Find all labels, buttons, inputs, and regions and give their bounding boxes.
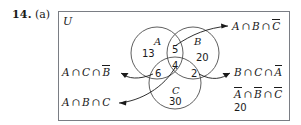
callout-a-and-b-not-c: A∩B∩C [232,20,280,32]
region-count-a-and-b-only: 5 [172,44,178,55]
outside-region-count: 20 [234,102,247,113]
set-label-c: C [172,85,180,96]
region-count-a-only: 13 [142,48,155,59]
callout-a-and-b-and-c: A∩B∩C [62,96,110,108]
callout-a-and-c-not-b: A∩C∩B [62,66,110,78]
region-count-b-only: 20 [196,52,209,63]
arrowhead-b-and-c-not-a [223,73,231,78]
region-count-a-b-c: 4 [172,60,178,71]
region-count-c-only: 30 [169,96,182,107]
region-count-a-and-c-only: 6 [155,68,161,79]
callout-b-and-c-not-a: B∩C∩A [234,66,282,78]
figure-root: 14. (a) U A B C 13 5 2 [0,0,301,125]
arrowhead-a-and-b-not-c [221,24,228,29]
arrow-a-and-b-and-c [119,66,176,103]
set-label-b: B [194,36,201,47]
arrowhead-a-and-b-and-c [119,101,127,106]
callout-none-of-a-b-c: A∩B∩C [234,88,282,100]
set-label-a: A [154,36,161,47]
venn-diagram [0,0,301,125]
region-count-b-and-c-only: 2 [191,68,197,79]
